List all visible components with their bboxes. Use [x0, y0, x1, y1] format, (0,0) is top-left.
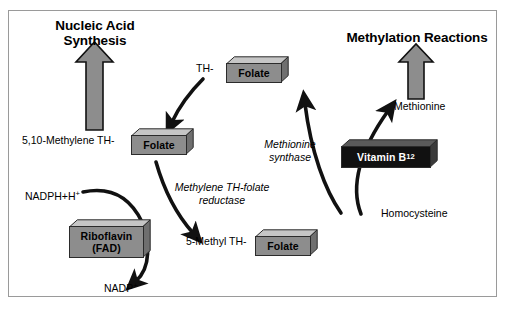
label-methyl-prefix: 5-Methyl TH- — [186, 236, 246, 248]
label-methylene-prefix: 5,10-Methylene TH- — [22, 135, 115, 147]
box-folate-left-label: Folate — [131, 135, 187, 155]
box-riboflavin[interactable]: Riboflavin (FAD) — [69, 219, 151, 258]
heading-nucleic-acid-synthesis: Nucleic Acid Synthesis — [34, 18, 156, 48]
label-nadph-text: NADPH+H — [25, 190, 75, 202]
label-nadph: NADPH+H+ — [25, 191, 80, 203]
box-folate-bottom[interactable]: Folate — [255, 229, 318, 256]
heading-methylation-reactions: Methylation Reactions — [337, 30, 497, 45]
label-enzyme-reductase-line1: Methylene TH-folate — [160, 181, 284, 194]
label-enzyme-synthase-line2: synthase — [249, 151, 331, 164]
label-nadp: NADP+ — [104, 283, 138, 295]
label-homocysteine: Homocysteine — [381, 208, 448, 220]
diagram-canvas: Nucleic Acid Synthesis Methylation React… — [0, 0, 512, 314]
heading-nucleic-acid-line1: Nucleic Acid — [34, 18, 156, 33]
label-enzyme-synthase-line1: Methionine — [249, 138, 331, 151]
box-vitamin-b12-label: Vitamin B12 — [341, 146, 431, 168]
box-riboflavin-label: Riboflavin (FAD) — [69, 226, 144, 258]
label-nadph-superscript: + — [75, 189, 79, 198]
box-riboflavin-line1: Riboflavin — [81, 230, 133, 242]
label-enzyme-synthase: Methionine synthase — [249, 138, 331, 164]
box-folate-top[interactable]: Folate — [226, 56, 289, 83]
box-folate-left[interactable]: Folate — [131, 128, 194, 155]
label-nadp-text: NADP — [104, 282, 133, 294]
label-th-prefix: TH- — [196, 63, 214, 75]
heading-nucleic-acid-line2: Synthesis — [34, 33, 156, 48]
box-riboflavin-line2: (FAD) — [81, 242, 133, 254]
box-vitamin-b12-text: Vitamin B — [357, 151, 406, 163]
label-methionine: Methionine — [394, 101, 445, 113]
box-folate-bottom-label: Folate — [255, 236, 311, 256]
label-nadp-superscript: + — [133, 281, 137, 290]
box-folate-top-label: Folate — [226, 63, 282, 83]
label-enzyme-reductase-line2: reductase — [160, 194, 284, 207]
label-enzyme-reductase: Methylene TH-folate reductase — [160, 181, 284, 207]
box-vitamin-b12[interactable]: Vitamin B12 — [341, 139, 438, 168]
